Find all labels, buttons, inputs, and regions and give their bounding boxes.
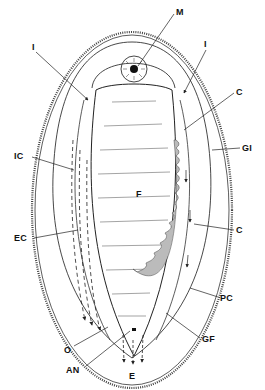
- label-osphradium: O: [64, 346, 71, 355]
- label-inhalant-chamber: IC: [14, 152, 24, 161]
- mouth-icon: [121, 56, 147, 82]
- label-posterior-ctenidia: PC: [220, 294, 233, 303]
- label-foot: F: [136, 190, 142, 199]
- label-gill-filament: GF: [202, 335, 215, 344]
- label-anus: AN: [66, 366, 80, 375]
- label-ctenidia-upper: C: [236, 88, 243, 97]
- label-mouth: M: [176, 8, 184, 17]
- anus-icon: [132, 328, 136, 331]
- label-ctenidia-lower: C: [236, 226, 243, 235]
- label-inhalant-right: I: [204, 40, 207, 49]
- chiton-diagram: [0, 0, 265, 390]
- label-exhalant: E: [129, 372, 135, 381]
- label-girdle: GI: [242, 144, 252, 153]
- label-exhalant-chamber: EC: [14, 234, 27, 243]
- label-inhalant-left: I: [32, 43, 35, 52]
